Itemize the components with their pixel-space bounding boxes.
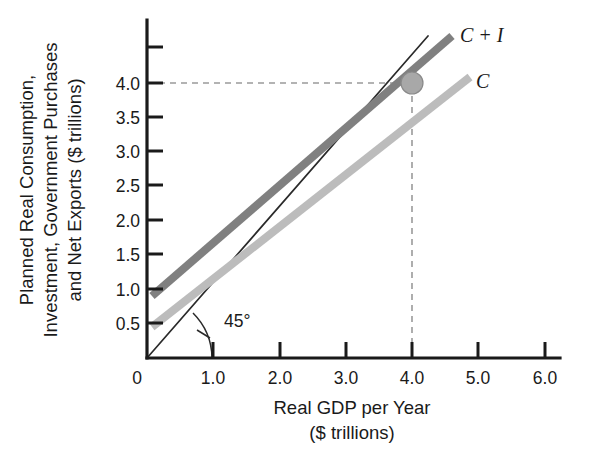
x-axis-title-line-1: Real GDP per Year [273,397,430,418]
origin-label: 0 [132,368,142,388]
y-axis-title: Planned Real Consumption, Investment, Go… [16,42,85,337]
y-tick-label-0-5: 0.5 [116,314,140,334]
y-tick-label-4-0: 4.0 [116,74,141,94]
curve-label-c-plus-i: C + I [460,24,505,46]
x-tick-label-1-0: 1.0 [201,368,226,388]
y-axis-title-line-1: Planned Real Consumption, [16,75,37,305]
x-tick-label-4-0: 4.0 [400,368,425,388]
x-tick-label-6-0: 6.0 [533,368,558,388]
x-tick-label-3-0: 3.0 [334,368,359,388]
chart-background [0,0,592,454]
angle-label-45: 45° [224,311,250,331]
x-tick-label-5-0: 5.0 [466,368,491,388]
y-tick-label-2-5: 2.5 [116,176,140,196]
y-tick-label-3-0: 3.0 [116,142,141,162]
curve-label-c: C [476,70,490,92]
x-tick-label-2-0: 2.0 [268,368,293,388]
y-tick-label-3-5: 3.5 [116,108,140,128]
equilibrium-point-marker [401,72,423,94]
y-tick-label-1-5: 1.5 [116,245,140,265]
y-tick-label-2-0: 2.0 [116,211,141,231]
y-axis-title-line-3: and Net Exports ($ trillions) [64,78,85,301]
x-axis-title-line-2: ($ trillions) [309,422,394,443]
y-axis-title-line-2: Investment, Government Purchases [40,42,61,337]
y-tick-label-1-0: 1.0 [116,280,141,300]
keynesian-cross-chart: 4.0 3.5 3.0 2.5 2.0 1.5 1.0 0.5 1.0 2.0 … [0,0,592,454]
